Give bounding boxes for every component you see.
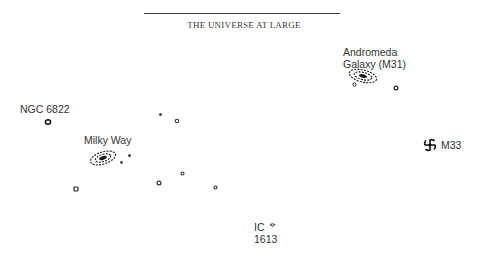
dwarf-galaxy-icon xyxy=(213,185,218,190)
dwarf-galaxy-icon xyxy=(73,186,79,192)
andromeda-label-line1: Andromeda xyxy=(343,46,406,58)
m33-galaxy-icon xyxy=(423,138,437,152)
header-rule xyxy=(144,13,340,14)
page-title: THE UNIVERSE AT LARGE xyxy=(0,20,488,30)
m33-label: M33 xyxy=(441,139,461,151)
ic1613-label-line2: 1613 xyxy=(254,233,277,245)
dwarf-galaxy-icon xyxy=(393,85,399,91)
smc-dwarf-icon xyxy=(119,160,124,165)
ngc6822-label: NGC 6822 xyxy=(20,103,70,115)
milky-way-galaxy-icon xyxy=(87,149,119,167)
m32-dwarf-icon xyxy=(352,82,357,87)
dwarf-galaxy-icon xyxy=(174,118,180,124)
milky-way-label: Milky Way xyxy=(84,134,131,146)
ic1613-icon xyxy=(269,223,276,229)
dwarf-galaxy-icon xyxy=(158,112,163,117)
lmc-dwarf-icon xyxy=(127,153,132,158)
dwarf-galaxy-icon xyxy=(156,180,162,186)
ngc6822-icon xyxy=(44,118,52,126)
dwarf-galaxy-icon xyxy=(180,171,185,176)
